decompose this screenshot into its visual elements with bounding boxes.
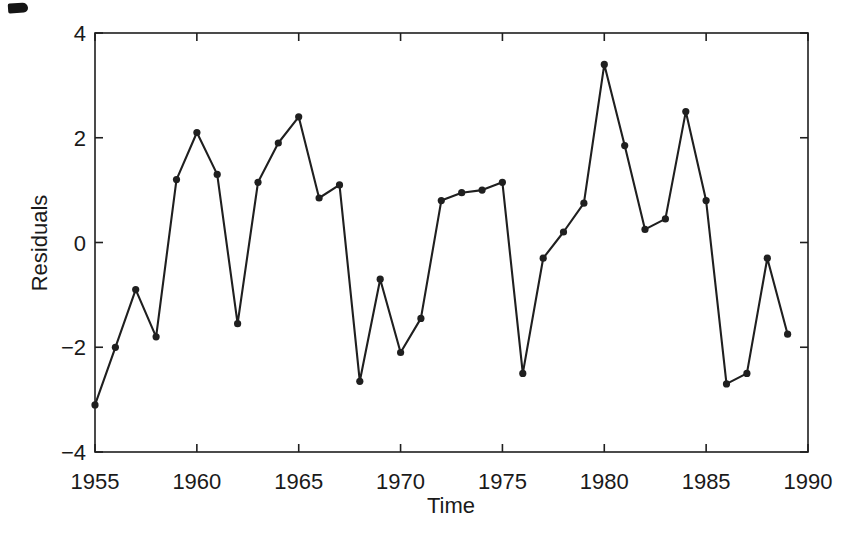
data-point [173, 176, 180, 183]
y-axis-title: Residuals [28, 195, 52, 292]
data-point [499, 179, 506, 186]
figure-canvas: 19551960196519701975198019851990420−2−4 … [0, 0, 855, 538]
data-point [153, 333, 160, 340]
data-point [682, 108, 689, 115]
residuals-line [95, 64, 788, 405]
x-tick-label: 1960 [172, 469, 221, 494]
x-tick-label: 1965 [274, 469, 323, 494]
data-point [91, 401, 98, 408]
x-tick-label: 1955 [71, 469, 120, 494]
data-point [641, 226, 648, 233]
y-tick-label: 2 [74, 126, 86, 151]
x-tick-label: 1980 [580, 469, 629, 494]
data-point [764, 255, 771, 262]
data-point [580, 200, 587, 207]
data-point [295, 113, 302, 120]
data-point [662, 215, 669, 222]
data-point [377, 276, 384, 283]
x-tick-label: 1970 [376, 469, 425, 494]
y-tick-label: −2 [61, 335, 86, 360]
data-point [458, 189, 465, 196]
data-point [743, 370, 750, 377]
data-point [519, 370, 526, 377]
x-tick-label: 1985 [682, 469, 731, 494]
data-point [275, 139, 282, 146]
data-point [703, 197, 710, 204]
data-point [397, 349, 404, 356]
data-point [417, 315, 424, 322]
data-point [540, 255, 547, 262]
x-axis-title: Time [351, 494, 551, 518]
plot-box [95, 33, 808, 452]
y-tick-label: −4 [61, 440, 86, 465]
data-point [193, 129, 200, 136]
data-point [132, 286, 139, 293]
data-point [784, 331, 791, 338]
data-point [234, 320, 241, 327]
data-point [479, 187, 486, 194]
data-point [214, 171, 221, 178]
data-point [560, 228, 567, 235]
data-point [356, 378, 363, 385]
y-tick-label: 4 [74, 21, 86, 46]
data-point [621, 142, 628, 149]
data-point [438, 197, 445, 204]
data-point [601, 61, 608, 68]
x-tick-label: 1975 [478, 469, 527, 494]
y-tick-label: 0 [74, 231, 86, 256]
data-point [723, 380, 730, 387]
data-point [336, 181, 343, 188]
data-point [316, 194, 323, 201]
x-tick-label: 1990 [784, 469, 833, 494]
data-point [254, 179, 261, 186]
data-point [112, 344, 119, 351]
residuals-time-chart: 19551960196519701975198019851990420−2−4 [0, 0, 855, 538]
